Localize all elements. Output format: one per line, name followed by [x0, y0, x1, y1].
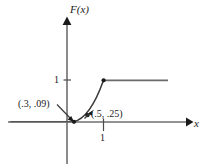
- annotation-leader-line-a: [57, 105, 72, 120]
- y-axis-arrow-icon: [63, 17, 72, 26]
- y-axis-tick-label-1: 1: [54, 75, 59, 85]
- annotation-label-point-b: (.5, .25): [91, 109, 123, 119]
- figure-cdf-plot: F(x) x 1 1 (.3, .09) (.5, .25): [0, 0, 206, 166]
- annotation-label-point-a: (.3, .09): [18, 99, 50, 109]
- x-axis-arrow-icon: [186, 118, 194, 127]
- curve-point-top-marker: [102, 78, 106, 82]
- x-axis-label: x: [194, 118, 199, 129]
- y-axis-label: F(x): [70, 4, 89, 15]
- x-axis-tick-label-1: 1: [100, 133, 105, 143]
